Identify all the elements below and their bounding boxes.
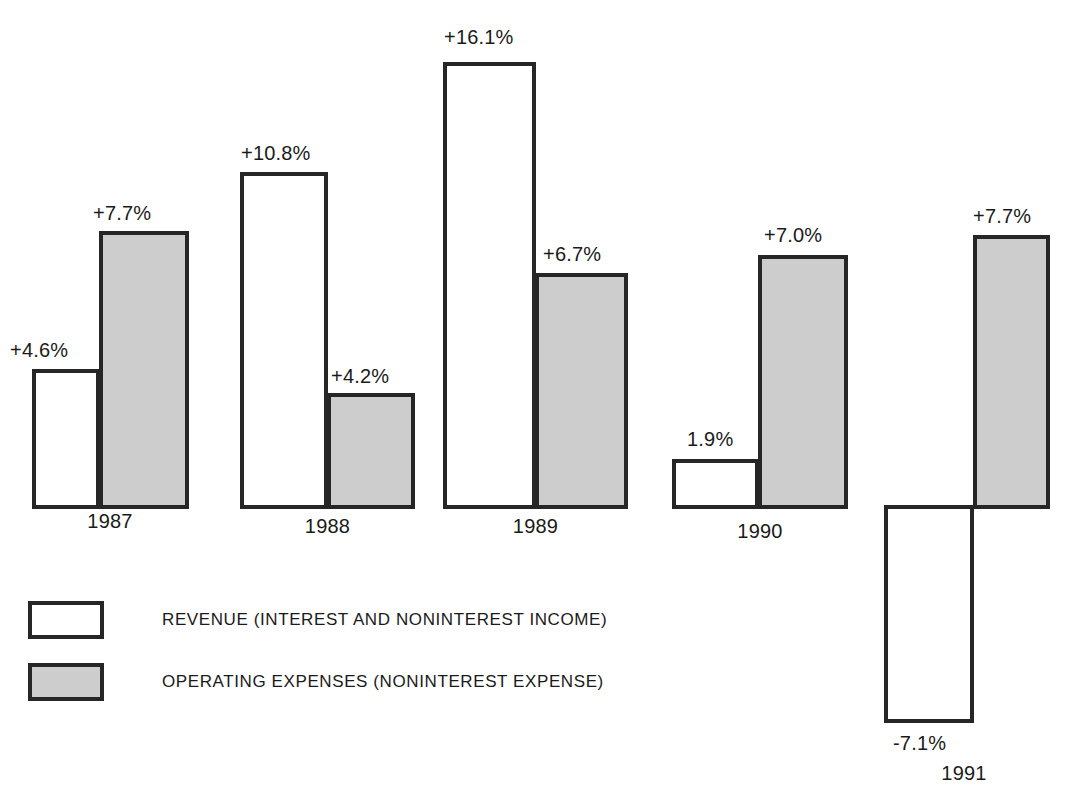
legend-swatch-expense-icon — [28, 663, 104, 701]
year-label-1991: 1991 — [884, 763, 1044, 783]
legend-item-expense: OPERATING EXPENSES (NONINTEREST EXPENSE) — [28, 658, 607, 706]
bar-chart: +4.6% +7.7% 1987 +10.8% +4.2% 1988 +16.1… — [0, 0, 1076, 796]
year-label-1990: 1990 — [672, 521, 848, 541]
legend-item-revenue: REVENUE (INTEREST AND NONINTEREST INCOME… — [28, 596, 607, 644]
value-label-expense-1991: +7.7% — [973, 206, 1031, 226]
bar-revenue-1991 — [884, 505, 974, 723]
legend-label-revenue: REVENUE (INTEREST AND NONINTEREST INCOME… — [162, 610, 607, 630]
value-label-expense-1987: +7.7% — [93, 203, 151, 223]
value-label-expense-1990: +7.0% — [764, 225, 822, 245]
bar-expense-1988 — [327, 393, 415, 509]
bar-revenue-1989 — [443, 62, 536, 509]
value-label-revenue-1987: +4.6% — [10, 340, 68, 360]
year-label-1989: 1989 — [443, 516, 628, 536]
bar-expense-1991 — [973, 235, 1050, 509]
value-label-revenue-1991: -7.1% — [893, 733, 946, 753]
bar-expense-1990 — [758, 255, 848, 509]
bar-revenue-1987 — [32, 369, 100, 509]
bar-revenue-1988 — [240, 172, 328, 509]
legend-swatch-revenue-icon — [28, 601, 104, 639]
year-label-1987: 1987 — [32, 511, 188, 531]
bar-expense-1989 — [535, 273, 628, 509]
value-label-revenue-1990: 1.9% — [687, 429, 733, 449]
value-label-expense-1988: +4.2% — [331, 366, 389, 386]
bar-expense-1987 — [99, 231, 189, 509]
legend-label-expense: OPERATING EXPENSES (NONINTEREST EXPENSE) — [162, 672, 604, 692]
chart-legend: REVENUE (INTEREST AND NONINTEREST INCOME… — [28, 596, 607, 720]
value-label-revenue-1988: +10.8% — [241, 143, 311, 163]
year-label-1988: 1988 — [240, 516, 415, 536]
bar-revenue-1990 — [672, 459, 759, 509]
value-label-expense-1989: +6.7% — [543, 244, 601, 264]
value-label-revenue-1989: +16.1% — [444, 27, 514, 47]
